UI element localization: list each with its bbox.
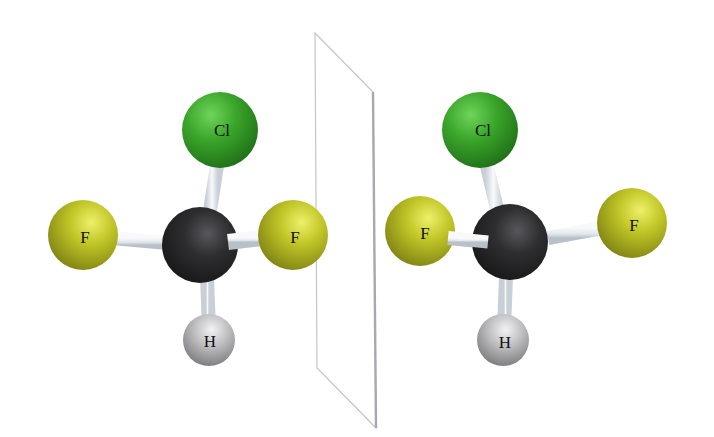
bond-c-f-right xyxy=(548,228,602,238)
right-molecule: Cl F H F xyxy=(385,92,667,366)
carbon-atom xyxy=(162,207,238,283)
chlorine-label: Cl xyxy=(214,121,230,140)
mirror-plane-edge xyxy=(373,92,376,428)
bond-c-f-left-front xyxy=(458,239,488,242)
left-molecule: Cl F H F xyxy=(48,92,328,366)
hydrogen-label: H xyxy=(204,332,216,351)
fluorine-label-right: F xyxy=(629,216,638,235)
diagram-canvas: Cl F H F Cl F H F xyxy=(0,0,714,437)
fluorine-label-right: F xyxy=(290,228,299,247)
chlorine-label: Cl xyxy=(475,121,491,140)
bond-c-f-right xyxy=(228,238,262,242)
fluorine-label-left: F xyxy=(80,228,89,247)
fluorine-label-left: F xyxy=(420,224,429,243)
hydrogen-label: H xyxy=(499,333,511,352)
